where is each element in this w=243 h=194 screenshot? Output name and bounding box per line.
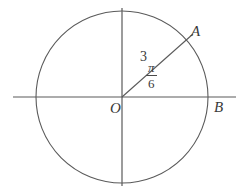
point-label-b: B xyxy=(214,100,223,115)
angle-label-fraction: π 6 xyxy=(146,61,157,90)
angle-denominator: 6 xyxy=(146,76,157,90)
radius-segment-OA xyxy=(122,34,193,97)
point-label-a: A xyxy=(191,24,200,39)
figure-canvas xyxy=(0,0,243,194)
geometry-figure: A B O 3 π 6 xyxy=(0,0,243,194)
point-label-origin: O xyxy=(110,101,121,116)
angle-numerator: π xyxy=(146,61,157,75)
